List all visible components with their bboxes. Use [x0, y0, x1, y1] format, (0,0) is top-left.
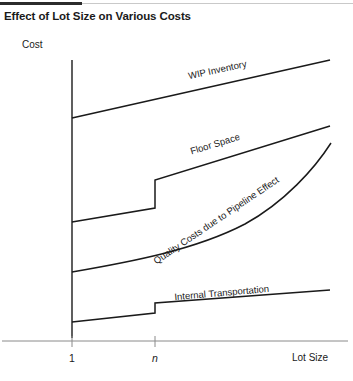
x-tick-label-n: n: [152, 352, 158, 364]
series-line-floor-space: [72, 126, 330, 222]
chart-plot-area: WIP Inventory Floor Space Quality Costs …: [0, 0, 353, 381]
x-tick-label-1: 1: [69, 352, 75, 364]
chart-figure: Effect of Lot Size on Various Costs WIP …: [0, 0, 353, 381]
y-axis-title: Cost: [22, 39, 43, 50]
series-line-quality-costs: [72, 143, 331, 272]
series-label-wip-inventory: WIP Inventory: [187, 58, 248, 81]
series-label-floor-space: Floor Space: [189, 131, 241, 156]
series-label-internal-transportation: Internal Transportation: [174, 283, 270, 302]
x-axis-title: Lot Size: [292, 352, 329, 363]
series-label-quality-costs: Quality Costs due to Pipeline Effect: [151, 174, 281, 266]
